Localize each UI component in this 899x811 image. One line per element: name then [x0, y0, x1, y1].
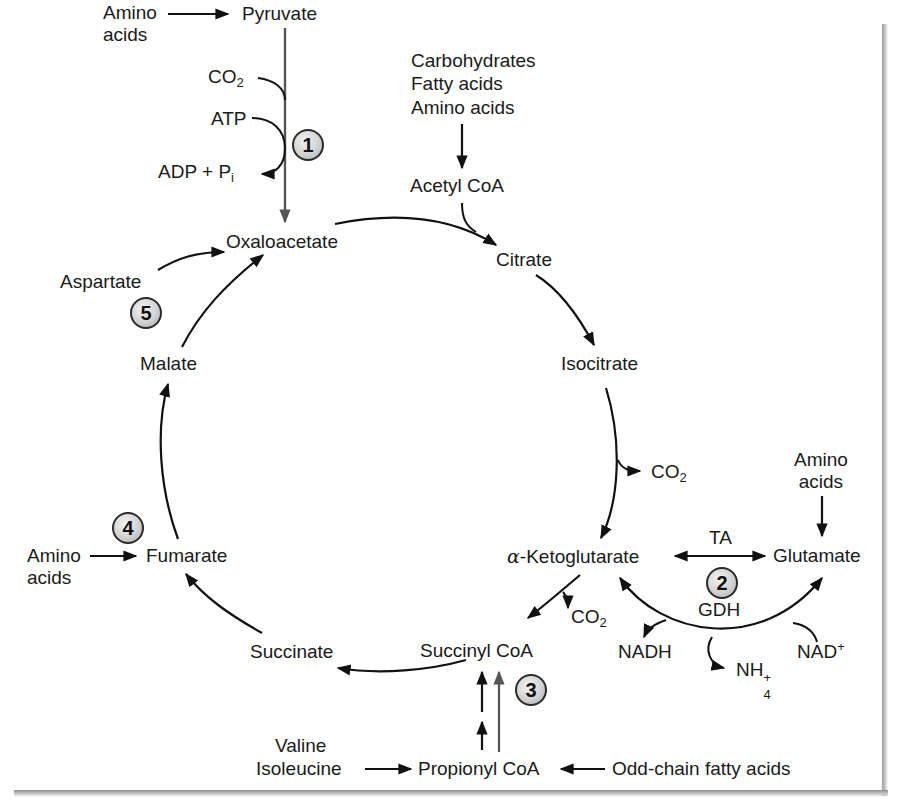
arc-nh4-out — [708, 637, 724, 668]
co2-text: CO — [208, 66, 237, 87]
co2-subscript: 2 — [237, 75, 244, 90]
adp-pi-text: ADP + P — [158, 161, 231, 182]
label-co2-top: CO2 — [208, 66, 244, 88]
label-acids-line2: acids — [103, 24, 157, 46]
arrow-isocitrate-to-akg — [601, 388, 617, 538]
node-succinate: Succinate — [250, 641, 333, 663]
arc-nadh-out — [644, 620, 666, 637]
label-pyruvate: Pyruvate — [242, 3, 317, 25]
node-alpha-ketoglutarate: α-Ketoglutarate — [507, 545, 639, 568]
label-adp-pi: ADP + Pi — [158, 161, 234, 183]
co2-subscript: 2 — [680, 470, 687, 485]
arrow-malate-to-oxaloacetate — [182, 255, 263, 347]
label-carbohydrates: Carbohydrates — [411, 50, 536, 72]
node-propionyl-coa: Propionyl CoA — [418, 758, 539, 780]
label-co2-isocitrate: CO2 — [651, 461, 687, 483]
arrow-oxaloacetate-to-citrate — [335, 218, 496, 245]
co2-subscript: 2 — [600, 615, 607, 630]
node-fumarate: Fumarate — [146, 545, 227, 567]
label-amino-acids-right: Amino acids — [794, 449, 848, 493]
arc-co2-in — [258, 78, 285, 100]
arrow-fumarate-to-malate — [161, 384, 178, 539]
co2-text: CO — [571, 606, 600, 627]
label-amino-line1: Amino — [794, 449, 848, 471]
arrow-succinate-to-fumarate — [186, 574, 262, 633]
step-badge-5: 5 — [130, 297, 162, 329]
label-aspartate: Aspartate — [60, 271, 141, 293]
label-amino-acids-top: Amino acids — [103, 2, 157, 46]
label-amino-acids-left: Amino acids — [27, 545, 81, 589]
step-badge-1: 1 — [292, 129, 324, 161]
label-acetyl-coa: Acetyl CoA — [410, 175, 504, 197]
arc-co2-isocitrate — [618, 460, 640, 471]
label-fatty-acids: Fatty acids — [411, 73, 503, 95]
label-nh4: NH+4 — [736, 659, 763, 681]
nh-text: NH — [736, 659, 763, 680]
label-valine: Valine — [275, 735, 326, 757]
label-co2-akg: CO2 — [571, 606, 607, 628]
node-glutamate: Glutamate — [773, 545, 861, 567]
nh4-subscript: 4 — [763, 684, 770, 706]
label-amino-acids-acetyl: Amino acids — [411, 97, 515, 119]
ketoglutarate-text: -Ketoglutarate — [520, 546, 639, 567]
label-amino-line1: Amino — [27, 545, 81, 567]
step-badge-2: 2 — [706, 567, 738, 599]
pi-subscript: i — [231, 170, 234, 185]
label-ta: TA — [709, 527, 732, 549]
label-acids-line2: acids — [27, 567, 81, 589]
arrow-citrate-to-isocitrate — [536, 275, 594, 345]
label-nadh: NADH — [618, 641, 672, 663]
arc-atp-to-adp — [252, 118, 285, 174]
label-acids-line2: acids — [794, 471, 848, 493]
nad-text: NAD — [797, 641, 837, 662]
node-citrate: Citrate — [496, 249, 552, 271]
arc-acetyl-coa-in — [462, 203, 476, 232]
arrow-aspartate-to-oxaloacetate — [158, 252, 224, 270]
label-nad-plus: NAD+ — [797, 641, 845, 663]
step-badge-3: 3 — [515, 674, 547, 706]
co2-text: CO — [651, 461, 680, 482]
label-atp: ATP — [211, 108, 247, 130]
nad-superscript: + — [837, 639, 845, 654]
label-odd-chain-fatty-acids: Odd-chain fatty acids — [612, 758, 790, 780]
step-badge-4: 4 — [112, 512, 144, 544]
node-oxaloacetate: Oxaloacetate — [226, 231, 338, 253]
label-amino-line1: Amino — [103, 2, 157, 24]
label-isoleucine: Isoleucine — [256, 758, 342, 780]
node-malate: Malate — [140, 353, 197, 375]
node-isocitrate: Isocitrate — [561, 353, 638, 375]
arc-nad-in — [793, 623, 817, 642]
node-succinyl-coa: Succinyl CoA — [420, 640, 533, 662]
alpha-symbol: α — [507, 545, 520, 567]
label-gdh: GDH — [698, 599, 740, 621]
arc-co2-akg — [563, 592, 568, 608]
